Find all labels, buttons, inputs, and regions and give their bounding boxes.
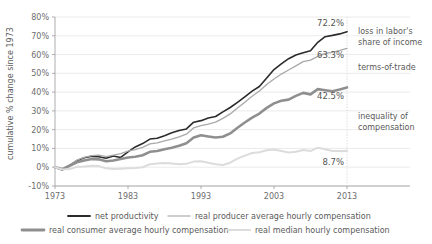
annotation-loss-in-labor-share-line1: loss in labor's xyxy=(358,27,413,36)
legend-label-net-productivity: net productivity xyxy=(95,212,159,221)
y-axis-tick-labels: -10%0%10%20%30%40%50%60%70%80% xyxy=(28,13,49,191)
annotation-inequality-of-compensation-line1: inequality of xyxy=(358,112,408,121)
end-value-label-real-producer-average-hourly-compensation: 63.3% xyxy=(317,50,344,60)
series-line-real-producer-average-hourly-compensation xyxy=(55,48,347,169)
end-value-label-real-consumer-average-hourly-compensation: 42.5% xyxy=(317,91,344,101)
series-lines xyxy=(55,32,347,170)
end-value-label-real-median-hourly-compensation: 8.7% xyxy=(322,157,344,167)
cumulative-change-line-chart: -10%0%10%20%30%40%50%60%70%80% 197319831… xyxy=(0,0,432,244)
x-tick-label: 2013 xyxy=(337,192,357,201)
y-axis-title: cumulative % change since 1973 xyxy=(6,27,15,160)
right-side-annotations: loss in labor's share of income terms-of… xyxy=(358,27,422,132)
y-tick-label: 20% xyxy=(31,126,49,135)
y-tick-label: 70% xyxy=(31,32,49,41)
legend-label-real-consumer-average-hourly-compensation: real consumer average hourly compensatio… xyxy=(49,226,229,235)
annotation-terms-of-trade: terms-of-trade xyxy=(358,63,416,72)
y-tick-label: 0% xyxy=(36,163,49,172)
y-tick-label: 10% xyxy=(31,144,49,153)
legend-label-real-producer-average-hourly-compensation: real producer average hourly compensatio… xyxy=(195,212,371,221)
x-tick-label: 2003 xyxy=(264,192,284,201)
x-axis-tick-labels: 19731983199320032013 xyxy=(45,186,357,201)
chart-container: -10%0%10%20%30%40%50%60%70%80% 197319831… xyxy=(0,0,432,244)
x-tick-label: 1993 xyxy=(191,192,211,201)
y-tick-label: 40% xyxy=(31,88,49,97)
annotation-loss-in-labor-share-line2: share of income xyxy=(358,38,422,47)
legend-label-real-median-hourly-compensation: real median hourly compensation xyxy=(255,226,390,235)
end-value-label-net-productivity: 72.2% xyxy=(317,18,344,28)
y-tick-label: 30% xyxy=(31,107,49,116)
y-tick-label: 50% xyxy=(31,69,49,78)
x-tick-label: 1983 xyxy=(118,192,138,201)
y-tick-label: 80% xyxy=(31,13,49,22)
x-tick-label: 1973 xyxy=(45,192,65,201)
y-tick-label: 60% xyxy=(31,51,49,60)
chart-legend: net productivity real producer average h… xyxy=(22,212,390,235)
y-tick-label: -10% xyxy=(28,182,49,191)
annotation-inequality-of-compensation-line2: compensation xyxy=(358,123,415,132)
